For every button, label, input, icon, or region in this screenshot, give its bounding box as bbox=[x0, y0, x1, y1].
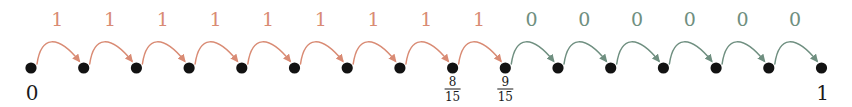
endpoint-label: 1 bbox=[816, 81, 829, 105]
number-line-point bbox=[552, 62, 563, 73]
arc-label-layer: 111111111000000 bbox=[51, 8, 801, 30]
transition-arc-1 bbox=[195, 42, 237, 64]
fraction-numerator: 8 bbox=[449, 75, 457, 89]
number-line-point bbox=[131, 62, 142, 73]
number-line-point bbox=[658, 62, 669, 73]
arc-label-6: 1 bbox=[368, 8, 380, 30]
arc-label-12: 0 bbox=[684, 8, 696, 30]
arc-label-9: 0 bbox=[526, 8, 538, 30]
transition-arc-1 bbox=[37, 42, 79, 64]
arc-label-5: 1 bbox=[315, 8, 327, 30]
number-line-point bbox=[711, 62, 722, 73]
arc-label-8: 1 bbox=[473, 8, 485, 30]
arc-label-2: 1 bbox=[157, 8, 169, 30]
transition-arc-0 bbox=[564, 42, 606, 64]
fraction-numerator: 9 bbox=[501, 75, 509, 89]
transition-arc-0 bbox=[511, 42, 553, 64]
arc-label-10: 0 bbox=[578, 8, 590, 30]
arc-label-1: 1 bbox=[104, 8, 116, 30]
number-line-point bbox=[394, 62, 405, 73]
number-line-point bbox=[236, 62, 247, 73]
transition-arc-1 bbox=[301, 42, 343, 64]
node-label-layer: 08159151 bbox=[26, 75, 829, 105]
transition-arc-1 bbox=[459, 42, 501, 64]
arc-label-3: 1 bbox=[209, 8, 221, 30]
arc-label-0: 1 bbox=[51, 8, 63, 30]
arc-label-7: 1 bbox=[420, 8, 432, 30]
number-line-point bbox=[447, 62, 458, 73]
number-line-point bbox=[500, 62, 511, 73]
number-line-point bbox=[342, 62, 353, 73]
number-line-point bbox=[184, 62, 195, 73]
arc-layer bbox=[37, 42, 817, 64]
number-line-point bbox=[289, 62, 300, 73]
dot-layer bbox=[25, 62, 827, 73]
number-line-point bbox=[605, 62, 616, 73]
transition-arc-1 bbox=[353, 42, 395, 64]
arc-label-13: 0 bbox=[736, 8, 748, 30]
number-line-point bbox=[25, 62, 36, 73]
transition-arc-1 bbox=[142, 42, 184, 64]
figure-canvas: 111111111000000 08159151 bbox=[0, 0, 852, 107]
number-line-diagram: 111111111000000 08159151 bbox=[0, 0, 852, 107]
number-line-point bbox=[763, 62, 774, 73]
transition-arc-1 bbox=[248, 42, 290, 64]
transition-arc-1 bbox=[90, 42, 132, 64]
number-line-point bbox=[816, 62, 827, 73]
transition-arc-1 bbox=[406, 42, 448, 64]
transition-arc-0 bbox=[617, 42, 659, 64]
number-line-point bbox=[78, 62, 89, 73]
arc-label-14: 0 bbox=[789, 8, 801, 30]
transition-arc-0 bbox=[669, 42, 711, 64]
arc-label-11: 0 bbox=[631, 8, 643, 30]
transition-arc-0 bbox=[775, 42, 817, 64]
fraction-denominator: 15 bbox=[445, 90, 460, 104]
arc-label-4: 1 bbox=[262, 8, 274, 30]
endpoint-label: 0 bbox=[26, 81, 39, 105]
fraction-denominator: 15 bbox=[498, 90, 513, 104]
transition-arc-0 bbox=[722, 42, 764, 64]
